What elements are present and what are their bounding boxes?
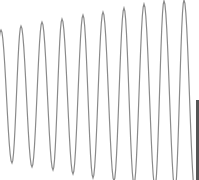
waveform-plot: [0, 0, 199, 180]
right-edge-bar: [196, 100, 199, 180]
waveform-line: [0, 0, 195, 180]
